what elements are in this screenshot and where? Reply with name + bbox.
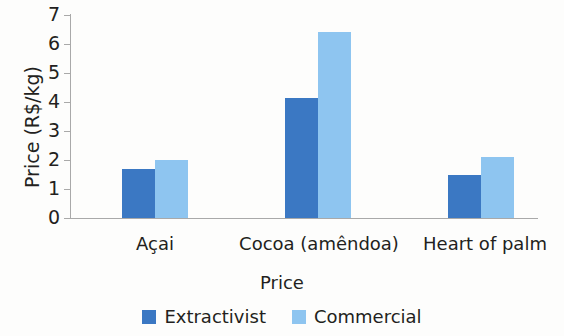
bar-extractivist-0 <box>122 169 155 218</box>
chart-legend: Extractivist Commercial <box>0 308 564 326</box>
y-tick-label: 3 <box>24 121 60 140</box>
legend-swatch-extractivist <box>142 310 156 324</box>
legend-label-extractivist: Extractivist <box>164 308 266 326</box>
x-axis-title: Price <box>0 272 564 293</box>
y-tick-mark <box>64 218 70 219</box>
bar-extractivist-2 <box>448 175 481 219</box>
x-tick-label-heart-of-palm: Heart of palm <box>408 233 562 255</box>
bar-commercial-1 <box>318 32 351 218</box>
x-tick-label-cocoa: Cocoa (amêndoa) <box>234 233 404 255</box>
legend-item-commercial: Commercial <box>292 308 422 326</box>
legend-label-commercial: Commercial <box>314 308 422 326</box>
bars-layer <box>70 15 540 218</box>
y-tick-label: 2 <box>24 150 60 169</box>
x-axis-line <box>70 218 538 219</box>
y-tick-label: 0 <box>24 208 60 227</box>
legend-swatch-commercial <box>292 310 306 324</box>
y-tick-label: 5 <box>24 63 60 82</box>
y-tick-label: 1 <box>24 179 60 198</box>
bar-commercial-2 <box>481 157 514 218</box>
bar-chart: Price (R$/kg) 01234567 Açai Cocoa (amênd… <box>0 0 564 336</box>
plot-area <box>70 15 540 218</box>
y-tick-label: 4 <box>24 92 60 111</box>
bar-extractivist-1 <box>285 98 318 218</box>
legend-item-extractivist: Extractivist <box>142 308 266 326</box>
y-tick-label: 6 <box>24 34 60 53</box>
bar-commercial-0 <box>155 160 188 218</box>
x-tick-label-acai: Açai <box>92 233 218 255</box>
y-tick-label: 7 <box>24 5 60 24</box>
